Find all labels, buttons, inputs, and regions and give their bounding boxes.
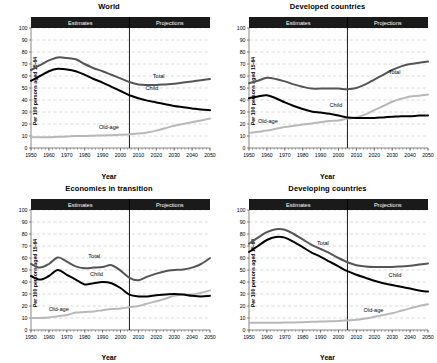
x-tick-label: 1950	[25, 152, 37, 158]
x-tick-label: 2050	[204, 152, 216, 158]
projections-band-label: Projections	[156, 202, 184, 208]
x-tick-label: 2040	[186, 334, 198, 340]
y-tick-label: 90	[240, 219, 246, 225]
chart-panel: Economies in transitionPer 100 persons a…	[0, 182, 218, 363]
y-tick-label: 80	[22, 49, 28, 55]
x-tick-label: 2040	[404, 334, 416, 340]
y-tick-label: 10	[240, 133, 246, 139]
x-tick-label: 2010	[351, 334, 363, 340]
y-tick-label: 30	[22, 109, 28, 115]
x-tick-label: 2030	[168, 334, 180, 340]
x-tick-label: 2020	[151, 152, 163, 158]
y-tick-label: 90	[240, 37, 246, 43]
x-tick-label: 1980	[79, 334, 91, 340]
x-tick-label: 1950	[243, 152, 255, 158]
x-tick-label: 1960	[261, 152, 273, 158]
x-tick-label: 2010	[133, 152, 145, 158]
x-tick-label: 1990	[315, 334, 327, 340]
y-tick-label: 80	[22, 231, 28, 237]
x-tick-label: 2030	[386, 152, 398, 158]
series-label-total: Total	[389, 69, 401, 75]
series-line-total	[249, 62, 428, 90]
y-tick-label: 50	[240, 267, 246, 273]
estimates-band-label: Estimates	[68, 202, 93, 208]
y-tick-label: 20	[22, 121, 28, 127]
x-tick-label: 2050	[422, 334, 434, 340]
estimates-band-label: Estimates	[68, 20, 93, 26]
x-tick-label: 2020	[369, 334, 381, 340]
x-tick-label: 1960	[43, 334, 55, 340]
chart-panel: WorldPer 100 persons aged 15-64YearEstim…	[0, 0, 218, 182]
y-tick-label: 60	[22, 255, 28, 261]
series-label-oldage: Old-age	[49, 306, 69, 312]
series-label-total: Total	[153, 73, 165, 79]
y-tick-label: 10	[240, 315, 246, 321]
plot-area: EstimatesProjections01020304050607080901…	[0, 0, 218, 182]
y-tick-label: 30	[240, 291, 246, 297]
x-tick-label: 2050	[422, 152, 434, 158]
chart-panel: Developing countriesPer 100 persons aged…	[218, 182, 437, 363]
y-tick-label: 30	[240, 109, 246, 115]
x-tick-label: 1950	[25, 334, 37, 340]
y-tick-label: 10	[22, 133, 28, 139]
series-label-child: Child	[90, 271, 103, 277]
series-line-oldage	[249, 304, 428, 323]
series-line-total	[31, 57, 210, 85]
y-tick-label: 40	[240, 279, 246, 285]
x-tick-label: 1970	[61, 152, 73, 158]
series-line-total	[249, 229, 428, 267]
x-tick-label: 1950	[243, 334, 255, 340]
x-tick-label: 1980	[79, 152, 91, 158]
series-label-child: Child	[389, 272, 402, 278]
y-tick-label: 70	[22, 61, 28, 67]
x-tick-label: 1970	[279, 152, 291, 158]
y-tick-label: 100	[237, 207, 246, 213]
x-tick-label: 2030	[386, 334, 398, 340]
plot-area: EstimatesProjections01020304050607080901…	[218, 182, 436, 363]
dependency-ratio-figure: WorldPer 100 persons aged 15-64YearEstim…	[0, 0, 437, 363]
y-tick-label: 60	[240, 73, 246, 79]
y-tick-label: 50	[22, 267, 28, 273]
x-tick-label: 1980	[297, 152, 309, 158]
y-tick-label: 0	[25, 327, 28, 333]
y-tick-label: 10	[22, 315, 28, 321]
x-tick-label: 2000	[115, 152, 127, 158]
series-label-child: Child	[330, 102, 343, 108]
plot-area: EstimatesProjections01020304050607080901…	[0, 182, 218, 363]
x-tick-label: 2000	[333, 152, 345, 158]
y-tick-label: 70	[240, 61, 246, 67]
x-tick-label: 2020	[151, 334, 163, 340]
x-tick-label: 2040	[404, 152, 416, 158]
x-tick-label: 1970	[279, 334, 291, 340]
y-tick-label: 70	[22, 243, 28, 249]
x-tick-label: 2040	[186, 152, 198, 158]
y-tick-label: 40	[22, 97, 28, 103]
x-tick-label: 2050	[204, 334, 216, 340]
series-label-oldage: Old-age	[258, 118, 278, 124]
series-label-total: Total	[317, 240, 329, 246]
series-line-oldage	[31, 119, 210, 138]
x-tick-label: 2030	[168, 152, 180, 158]
projections-band-label: Projections	[156, 20, 184, 26]
y-tick-label: 100	[237, 25, 246, 31]
series-line-child	[249, 237, 428, 292]
chart-panel: Developed countriesPer 100 persons aged …	[218, 0, 437, 182]
series-label-total: Total	[88, 253, 100, 259]
y-tick-label: 50	[22, 85, 28, 91]
y-tick-label: 90	[22, 37, 28, 43]
y-tick-label: 80	[240, 231, 246, 237]
x-tick-label: 1960	[43, 152, 55, 158]
series-label-oldage: Old-age	[364, 307, 384, 313]
y-tick-label: 70	[240, 243, 246, 249]
x-tick-label: 1980	[297, 334, 309, 340]
series-line-oldage	[249, 95, 428, 133]
y-tick-label: 100	[19, 25, 28, 31]
x-tick-label: 1960	[261, 334, 273, 340]
y-tick-label: 80	[240, 49, 246, 55]
y-tick-label: 40	[240, 97, 246, 103]
y-tick-label: 90	[22, 219, 28, 225]
plot-area: EstimatesProjections01020304050607080901…	[218, 0, 436, 182]
series-label-oldage: Old-age	[99, 124, 119, 130]
projections-band-label: Projections	[374, 20, 402, 26]
x-tick-label: 2020	[369, 152, 381, 158]
